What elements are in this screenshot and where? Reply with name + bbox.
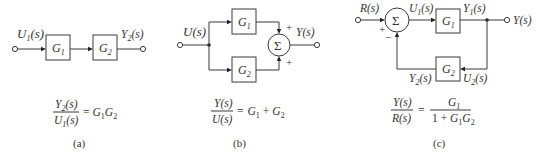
sign-plus-top: + [286, 21, 292, 33]
panel-a-series: U1(s) G1 G2 Y2(s) Y2(s) U1(s) =G1G2 (a) [12, 26, 145, 150]
output-signal-label: Y(s) [296, 26, 315, 39]
arrow-icon [460, 67, 465, 71]
arrow-icon [277, 56, 281, 61]
transfer-function-c: Y(s) R(s) = G1 1 + G1G2 [391, 96, 475, 127]
eq-frac-denominator: 1 + G1G2 [432, 112, 475, 127]
arrow-icon [431, 18, 436, 22]
input-signal-label: U(s) [183, 24, 206, 39]
eq-denominator: U1(s) [54, 114, 79, 129]
eq-rhs: =G1G2 [83, 106, 117, 121]
eq-denominator: R(s) [391, 112, 411, 125]
eq-rhs: =G1+G2 [237, 105, 285, 120]
eq-numerator: Y(s) [393, 96, 412, 109]
signal-line [256, 58, 279, 70]
sigma-icon: Σ [392, 13, 400, 28]
eq-numerator: Y(s) [214, 97, 233, 110]
input-terminal [177, 42, 182, 47]
signal-line [209, 22, 230, 45]
output-signal-label: Y(s) [513, 14, 532, 27]
eq-frac-numerator: G1 [448, 96, 460, 111]
sigma-icon: Σ [274, 38, 282, 53]
caption-c: (c) [433, 137, 446, 150]
caption-b: (b) [233, 137, 246, 150]
output-terminal [314, 42, 319, 47]
eq-denominator: U(s) [212, 113, 233, 126]
block-diagram-figure: U1(s) G1 G2 Y2(s) Y2(s) U1(s) =G1G2 (a) … [0, 0, 539, 155]
sign-minus: − [385, 31, 391, 43]
arrow-icon [395, 32, 399, 37]
input-signal-label: R(s) [359, 2, 379, 15]
u1-signal-label: U1(s) [409, 2, 434, 17]
arrow-icon [380, 18, 385, 22]
arrow-icon [88, 47, 93, 51]
y1-signal-label: Y1(s) [463, 2, 486, 17]
caption-a: (a) [73, 137, 86, 150]
panel-b-parallel: U(s) G1 G2 Σ + + Y(s) Y(s) U(s) =G1+G2 (… [177, 9, 319, 150]
u2-signal-label: U2(s) [463, 72, 488, 87]
transfer-function-b: Y(s) U(s) =G1+G2 [211, 97, 285, 126]
input-terminal [12, 46, 17, 51]
sign-plus-bottom: + [286, 56, 292, 68]
input-terminal [355, 17, 360, 22]
arrow-icon [227, 20, 232, 24]
input-signal-label: U1(s) [17, 26, 44, 43]
panel-c-feedback: R(s) Σ + − U1(s) G1 Y1(s) Y(s) G2 Y2(s) … [355, 2, 531, 150]
feedback-line [462, 20, 487, 69]
signal-line [209, 45, 230, 70]
transfer-function-a: Y2(s) U1(s) =G1G2 [53, 98, 117, 129]
eq-equals: = [418, 104, 425, 116]
arrow-icon [227, 68, 232, 72]
y2-signal-label: Y2(s) [409, 72, 432, 87]
signal-line [256, 22, 279, 32]
output-terminal [504, 17, 509, 22]
eq-numerator: Y2(s) [55, 98, 78, 113]
output-terminal [140, 46, 145, 51]
output-signal-label: Y2(s) [121, 28, 144, 43]
arrow-icon [41, 47, 46, 51]
arrow-icon [277, 29, 281, 34]
feedback-line [397, 34, 436, 69]
